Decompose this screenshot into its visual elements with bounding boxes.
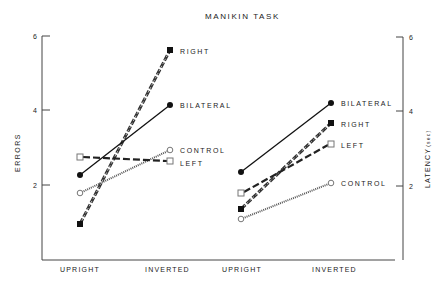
open-square-marker <box>77 154 83 160</box>
series-label-left: LEFT <box>180 160 204 167</box>
filled-square-marker <box>167 47 173 53</box>
right-tick-4: 4 <box>409 108 413 115</box>
filled-square-marker <box>328 120 334 126</box>
open-circle-marker <box>77 190 83 196</box>
series-label-right: RIGHT <box>341 121 371 128</box>
filled-square-marker <box>238 206 244 212</box>
series-right-latency: RIGHT <box>238 120 371 212</box>
open-square-marker <box>167 158 173 164</box>
filled-circle-marker <box>238 169 244 175</box>
filled-circle-marker <box>77 172 83 178</box>
x-label-upright-right: UPRIGHT <box>222 266 262 273</box>
open-square-marker <box>238 190 244 196</box>
right-tick-2: 2 <box>409 183 413 190</box>
left-tick-4: 4 <box>33 107 37 114</box>
series-label-control: CONTROL <box>341 180 386 187</box>
latency-panel: BILATERAL RIGHT LEFT CONTROL <box>238 100 393 222</box>
series-left-latency: LEFT <box>238 141 365 196</box>
open-circle-marker <box>167 147 173 153</box>
series-label-control: CONTROL <box>180 147 225 154</box>
manikin-task-chart: MANIKIN TASK 6 4 2 ERRORS 6 4 2 LATENCY(… <box>0 0 443 286</box>
x-label-inverted-left: INVERTED <box>145 266 190 273</box>
filled-circle-marker <box>167 102 173 108</box>
open-square-marker <box>328 141 334 147</box>
left-y-label: ERRORS <box>14 133 21 172</box>
series-label-right: RIGHT <box>180 48 210 55</box>
open-circle-marker <box>328 180 334 186</box>
x-label-inverted-right: INVERTED <box>312 266 357 273</box>
filled-circle-marker <box>328 100 334 106</box>
chart-title: MANIKIN TASK <box>205 12 280 21</box>
series-bilateral-errors: BILATERAL <box>77 102 232 178</box>
series-label-bilateral: BILATERAL <box>341 100 393 107</box>
series-right-errors: RIGHT <box>77 47 210 227</box>
right-y-label: LATENCY(sec) <box>424 130 431 188</box>
right-tick-6: 6 <box>409 34 413 41</box>
open-circle-marker <box>238 216 244 222</box>
series-label-left: LEFT <box>341 142 365 149</box>
left-tick-2: 2 <box>33 182 37 189</box>
right-y-axis: 6 4 2 LATENCY(sec) <box>396 34 431 260</box>
left-tick-6: 6 <box>33 33 37 40</box>
series-bilateral-latency: BILATERAL <box>238 100 393 175</box>
errors-panel: RIGHT BILATERAL CONTROL LEFT <box>77 47 232 227</box>
x-label-upright-left: UPRIGHT <box>60 266 100 273</box>
filled-square-marker <box>77 221 83 227</box>
series-control-latency: CONTROL <box>238 180 386 222</box>
series-label-bilateral: BILATERAL <box>180 102 232 109</box>
